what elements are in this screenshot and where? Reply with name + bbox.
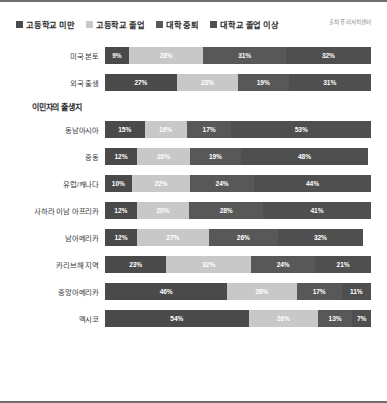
bar-segment[interactable]: 19% [190, 148, 241, 165]
bar-segment[interactable]: 23% [177, 74, 238, 91]
bar-segment[interactable]: 48% [241, 148, 369, 165]
bar-row-label: 중앙아메리카 [16, 286, 105, 297]
bar-segment-value: 21% [337, 261, 350, 268]
bar-segment[interactable]: 12% [105, 202, 137, 219]
bar-segment[interactable]: 21% [315, 256, 371, 273]
section-title: 이민자의 출생지 [32, 101, 371, 112]
bar-segment[interactable]: 20% [137, 202, 190, 219]
bar-segment-value: 32% [322, 52, 335, 59]
bar-segment-value: 54% [170, 315, 183, 322]
bar-segment-value: 24% [277, 261, 290, 268]
bar-segment[interactable]: 17% [297, 283, 342, 300]
bar-row: 남아메리카12%27%26%32% [16, 229, 371, 246]
bar-segment-value: 19% [257, 79, 270, 86]
bar-segment[interactable]: 24% [251, 256, 315, 273]
bar-segment[interactable]: 10% [105, 175, 132, 192]
bar-segment[interactable]: 26% [227, 283, 296, 300]
stacked-bar: 27%23%19%31% [105, 74, 371, 91]
bar-segment-value: 31% [323, 79, 336, 86]
bar-segment-value: 23% [201, 79, 214, 86]
stacked-bar: 12%27%26%32% [105, 229, 371, 246]
bar-segment-value: 24% [216, 180, 229, 187]
bar-row-label: 동남아시아 [16, 124, 105, 135]
bar-segment[interactable]: 20% [137, 148, 190, 165]
bar-row-label: 미국 본토 [16, 50, 105, 61]
stacked-bar: 12%20%28%41% [105, 202, 371, 219]
bar-segment[interactable]: 46% [105, 283, 227, 300]
bar-segment-value: 32% [202, 261, 215, 268]
bar-segment-value: 48% [298, 153, 311, 160]
stacked-bar: 15%16%17%53% [105, 121, 371, 138]
bar-segment[interactable]: 53% [231, 121, 371, 138]
bar-row: 멕시코54%26%13%7% [16, 310, 371, 327]
bar-segment[interactable]: 28% [189, 202, 263, 219]
legend-item[interactable]: 고등학교 졸업 [86, 18, 145, 30]
stacked-bar: 10%22%24%44% [105, 175, 371, 192]
bar-segment-value: 26% [237, 234, 250, 241]
bar-segment[interactable]: 12% [105, 229, 137, 246]
legend-item[interactable]: 고등학교 미만 [16, 18, 75, 30]
legend-item-label: 고등학교 졸업 [96, 18, 145, 30]
bar-segment[interactable]: 32% [166, 256, 251, 273]
bar-segment-value: 26% [277, 315, 290, 322]
bar-segment-value: 16% [159, 126, 172, 133]
legend-swatch-icon [156, 21, 163, 28]
bar-segment-value: 53% [295, 126, 308, 133]
legend-item[interactable]: 대학교 졸업 이상 [210, 18, 279, 30]
bar-segment[interactable]: 41% [263, 202, 371, 219]
chart-legend: 고등학교 미만고등학교 졸업대학 중퇴대학교 졸업 이상 [16, 17, 371, 31]
bar-segment[interactable]: 26% [249, 310, 318, 327]
bar-row: 중동12%20%19%48% [16, 148, 371, 165]
bar-segment[interactable]: 9% [105, 47, 129, 64]
bar-row-label: 남아메리카 [16, 232, 105, 243]
bar-segment-value: 22% [154, 180, 167, 187]
bar-segment[interactable]: 27% [137, 229, 209, 246]
bar-segment[interactable]: 24% [190, 175, 254, 192]
bar-segment[interactable]: 19% [238, 74, 289, 91]
bar-row: 카리브해 지역23%32%24%21% [16, 256, 371, 273]
bar-segment[interactable]: 22% [132, 175, 191, 192]
bar-segment[interactable]: 11% [342, 283, 371, 300]
bar-segment-value: 41% [311, 207, 324, 214]
bar-segment[interactable]: 13% [318, 310, 353, 327]
bar-row: 미국 본토9%28%31%32% [16, 47, 371, 64]
bar-segment[interactable]: 23% [105, 256, 166, 273]
bar-row: 외국 출생27%23%19%31% [16, 74, 371, 91]
bar-segment[interactable]: 7% [352, 310, 371, 327]
bar-segment[interactable]: 17% [187, 121, 232, 138]
bar-segment-value: 20% [157, 153, 170, 160]
chart-plot-area: 미국 본토9%28%31%32%외국 출생27%23%19%31%이민자의 출생… [16, 43, 371, 327]
bar-segment-value: 9% [112, 52, 121, 59]
bar-segment-value: 19% [209, 153, 222, 160]
bar-segment[interactable]: 31% [289, 74, 371, 91]
bar-row: 중앙아메리카46%26%17%11% [16, 283, 371, 300]
bar-segment-value: 15% [118, 126, 131, 133]
bar-segment[interactable]: 28% [129, 47, 203, 64]
source-note: 출처 퓨 리서치센터 [329, 18, 371, 26]
bar-segment-value: 27% [134, 79, 147, 86]
bar-segment[interactable]: 27% [105, 74, 177, 91]
legend-swatch-icon [86, 21, 93, 28]
bar-row-label: 중동 [16, 151, 105, 162]
bar-segment[interactable]: 54% [105, 310, 249, 327]
bar-segment[interactable]: 31% [203, 47, 285, 64]
bar-segment-value: 26% [255, 288, 268, 295]
bar-segment[interactable]: 26% [209, 229, 278, 246]
bar-segment[interactable]: 32% [286, 47, 371, 64]
bar-segment-value: 17% [313, 288, 326, 295]
chart-container: 고등학교 미만고등학교 졸업대학 중퇴대학교 졸업 이상 출처 퓨 리서치센터 … [0, 0, 387, 403]
bar-row-label: 멕시코 [16, 313, 105, 324]
bar-segment[interactable]: 16% [145, 121, 187, 138]
legend-swatch-icon [210, 21, 217, 28]
legend-item[interactable]: 대학 중퇴 [156, 18, 199, 30]
bar-segment-value: 20% [156, 207, 169, 214]
bar-segment[interactable]: 44% [254, 175, 371, 192]
stacked-bar: 54%26%13%7% [105, 310, 371, 327]
legend-item-label: 대학 중퇴 [166, 18, 199, 30]
bar-segment-value: 10% [112, 180, 125, 187]
bar-segment[interactable]: 32% [278, 229, 363, 246]
bar-segment[interactable]: 12% [105, 148, 137, 165]
bar-segment-value: 17% [203, 126, 216, 133]
bar-segment-value: 31% [238, 52, 251, 59]
bar-segment[interactable]: 15% [105, 121, 145, 138]
